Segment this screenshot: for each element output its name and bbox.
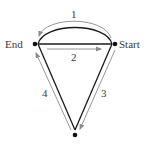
start-node xyxy=(113,42,118,47)
route-3-label: 3 xyxy=(101,87,107,99)
edge-top-arc xyxy=(38,28,112,45)
bottom-node xyxy=(73,133,78,138)
graph-edges xyxy=(38,28,112,131)
end-node xyxy=(33,42,38,47)
route-3-arrow xyxy=(80,50,115,129)
end-label: End xyxy=(5,38,23,50)
route-1-arrow xyxy=(39,21,111,38)
route-4-label: 4 xyxy=(42,87,48,99)
route-diagram: End Start 1 2 3 4 xyxy=(0,0,151,145)
route-arrows xyxy=(36,21,115,130)
start-label: Start xyxy=(119,38,140,50)
route-1-label: 1 xyxy=(71,8,77,20)
route-2-label: 2 xyxy=(71,51,77,63)
